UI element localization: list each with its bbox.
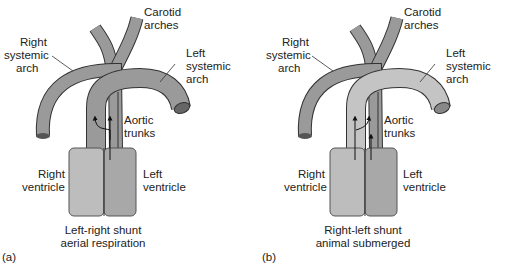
- svg-text:arches: arches: [404, 19, 439, 31]
- svg-text:arch: arch: [278, 62, 300, 74]
- svg-text:Left: Left: [446, 47, 466, 59]
- svg-text:ventricle: ventricle: [403, 181, 446, 193]
- svg-text:ventricle: ventricle: [143, 181, 186, 193]
- svg-text:arch: arch: [186, 73, 208, 85]
- label-carotid-2: arches: [144, 19, 179, 31]
- svg-text:Left-right shunt: Left-right shunt: [65, 224, 143, 236]
- svg-text:Right: Right: [20, 36, 48, 48]
- svg-text:aerial respiration: aerial respiration: [60, 237, 145, 249]
- label-right-ventricle: Right: [298, 168, 326, 180]
- label-carotid: Carotid: [404, 6, 441, 18]
- label-left-ventricle: Left: [403, 168, 423, 180]
- svg-text:trunks: trunks: [124, 127, 156, 139]
- label-left-ventricle-2: ventricle: [143, 181, 186, 193]
- label-right-systemic: Right: [20, 36, 48, 48]
- caption-a: Left-right shunt: [65, 224, 143, 236]
- svg-text:systemic: systemic: [186, 60, 231, 72]
- label-aortic: Aortic: [384, 114, 414, 126]
- svg-text:Aortic: Aortic: [384, 114, 414, 126]
- right-ventricle-chamber: [330, 148, 365, 216]
- label-right-ventricle-2: ventricle: [22, 181, 65, 193]
- label-carotid: Carotid: [144, 6, 181, 18]
- svg-text:Carotid: Carotid: [144, 6, 181, 18]
- panel-label-b: (b): [262, 251, 276, 263]
- panel-label-a: (a): [2, 251, 16, 263]
- svg-text:Right: Right: [38, 168, 66, 180]
- label-aortic-2: trunks: [384, 127, 416, 139]
- label-left-systemic: Left: [446, 47, 466, 59]
- svg-text:animal submerged: animal submerged: [316, 237, 411, 249]
- label-right-ventricle-2: ventricle: [284, 181, 327, 193]
- label-left-systemic-3: arch: [446, 73, 468, 85]
- right-ventricle-chamber: [69, 148, 104, 216]
- left-ventricle-chamber: [365, 148, 397, 216]
- svg-text:arch: arch: [16, 62, 38, 74]
- label-carotid-2: arches: [404, 19, 439, 31]
- label-left-ventricle-2: ventricle: [403, 181, 446, 193]
- svg-text:(a): (a): [2, 251, 16, 263]
- svg-text:trunks: trunks: [384, 127, 416, 139]
- svg-text:arches: arches: [144, 19, 179, 31]
- label-left-systemic-3: arch: [186, 73, 208, 85]
- label-aortic: Aortic: [124, 114, 154, 126]
- label-aortic-2: trunks: [124, 127, 156, 139]
- svg-text:Left: Left: [186, 47, 206, 59]
- caption-a-2: aerial respiration: [60, 237, 145, 249]
- left-ventricle-chamber: [104, 148, 136, 216]
- label-left-systemic: Left: [186, 47, 206, 59]
- svg-text:systemic: systemic: [446, 60, 491, 72]
- svg-text:ventricle: ventricle: [284, 181, 327, 193]
- label-right-systemic-3: arch: [278, 62, 300, 74]
- label-left-ventricle: Left: [143, 168, 163, 180]
- svg-text:(b): (b): [262, 251, 276, 263]
- label-right-systemic-2: systemic: [4, 49, 49, 61]
- svg-text:systemic: systemic: [266, 49, 311, 61]
- svg-text:ventricle: ventricle: [22, 181, 65, 193]
- caption-b: Right-left shunt: [324, 224, 402, 236]
- caption-b-2: animal submerged: [316, 237, 411, 249]
- svg-text:Left: Left: [403, 168, 423, 180]
- svg-text:arch: arch: [446, 73, 468, 85]
- label-right-ventricle: Right: [38, 168, 66, 180]
- label-left-systemic-2: systemic: [186, 60, 231, 72]
- svg-text:systemic: systemic: [4, 49, 49, 61]
- svg-text:Left: Left: [143, 168, 163, 180]
- label-right-systemic-2: systemic: [266, 49, 311, 61]
- label-left-systemic-2: systemic: [446, 60, 491, 72]
- svg-text:Right-left shunt: Right-left shunt: [324, 224, 402, 236]
- svg-text:Right: Right: [298, 168, 326, 180]
- label-right-systemic: Right: [282, 36, 310, 48]
- diagram: Carotid arches Right systemic arch Left …: [0, 0, 505, 265]
- svg-text:Aortic: Aortic: [124, 114, 154, 126]
- label-right-systemic-3: arch: [16, 62, 38, 74]
- svg-text:Right: Right: [282, 36, 310, 48]
- svg-text:Carotid: Carotid: [404, 6, 441, 18]
